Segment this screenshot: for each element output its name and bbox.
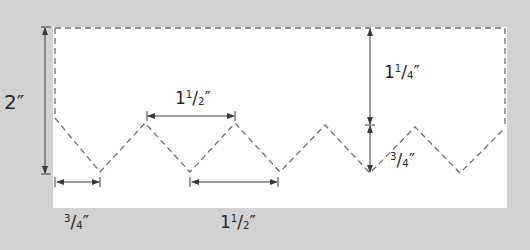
diagram-stage: 2″ 11/2″ 11/4″ 3/4″ 3/4″ 11/2″ — [0, 0, 530, 250]
paper-panel — [53, 27, 507, 208]
label-first-valley-offset: 3/4″ — [64, 214, 89, 231]
label-zigzag-depth: 3/4″ — [390, 152, 415, 169]
label-peak-spacing-top: 11/2″ — [175, 90, 211, 107]
label-top-to-valley: 11/4″ — [384, 64, 420, 81]
label-valley-spacing-bottom: 11/2″ — [220, 214, 256, 231]
diagram-canvas — [0, 0, 530, 250]
label-total-height: 2″ — [4, 92, 24, 112]
dimension-2in — [41, 27, 51, 174]
